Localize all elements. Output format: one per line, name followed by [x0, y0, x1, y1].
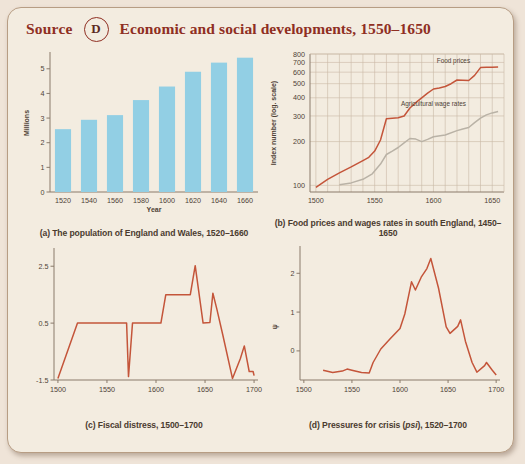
y-tick-label-b: 500: [293, 79, 305, 88]
chart-d-caption-post: ), 1520–1700: [417, 420, 466, 430]
y-tick-label-a: 4: [41, 89, 45, 98]
y-tick-label-a: 1: [41, 163, 45, 172]
y-tick-label-b: 200: [293, 137, 305, 146]
x-axis-title-a: Year: [147, 206, 162, 213]
x-tick-label-b: 1600: [425, 196, 441, 205]
y-tick-label-d: 2: [291, 269, 295, 278]
chart-a-container: 01234515201540156015801600162016401660Ye…: [20, 46, 268, 238]
x-tick-label-d: 1650: [440, 385, 456, 394]
chart-c-container: -1.50.52.515001550160016501700 (c) Fisca…: [20, 240, 268, 430]
x-tick-label-a: 1520: [55, 196, 71, 205]
source-label: Source: [26, 20, 73, 38]
x-tick-label-b: 1550: [367, 196, 383, 205]
chart-d-caption-psi: psi: [405, 420, 417, 430]
x-tick-label-c: 1500: [50, 385, 66, 394]
x-tick-label-a: 1560: [107, 196, 123, 205]
chart-b-caption: (b) Food prices and wages rates in south…: [266, 218, 510, 238]
chart-d-pressures-crisis: 01215001550160016501700ψ: [266, 240, 510, 412]
chart-b-prices-wages: 1002003004005006007008001500155016001650…: [266, 46, 510, 224]
x-tick-label-a: 1660: [237, 196, 253, 205]
y-tick-label-b: 400: [293, 93, 305, 102]
chart-c-caption: (c) Fiscal distress, 1500–1700: [20, 420, 268, 430]
x-tick-label-a: 1540: [81, 196, 97, 205]
y-axis-title-a: Millions: [23, 110, 30, 136]
x-tick-label-d: 1700: [488, 385, 504, 394]
y-tick-label-a: 2: [41, 138, 45, 147]
chart-d-container: 01215001550160016501700ψ (d) Pressures f…: [266, 240, 510, 430]
chart-a-population: 01234515201540156015801600162016401660Ye…: [20, 46, 268, 224]
x-tick-label-d: 1600: [392, 385, 408, 394]
y-tick-label-b: 800: [293, 50, 305, 59]
x-tick-label-c: 1650: [197, 385, 213, 394]
x-tick-label-a: 1640: [211, 196, 227, 205]
chart-d-caption: (d) Pressures for crisis (psi), 1520–170…: [266, 420, 510, 430]
x-tick-label-b: 1500: [308, 196, 324, 205]
series-label-1-b: Food prices: [437, 57, 470, 65]
chart-a-caption: (a) The population of England and Wales,…: [20, 228, 268, 238]
y-tick-label-c: 0.5: [39, 319, 49, 328]
y-tick-label-a: 3: [41, 114, 45, 123]
x-tick-label-a: 1620: [185, 196, 201, 205]
x-tick-label-b: 1650: [484, 196, 500, 205]
source-panel: Source D Economic and social development…: [7, 7, 514, 453]
x-tick-label-c: 1600: [148, 385, 164, 394]
y-tick-label-d: 0: [291, 346, 295, 355]
x-tick-label-d: 1550: [344, 385, 360, 394]
y-axis-title-b: Index number (log. scale): [270, 81, 278, 165]
y-tick-label-a: 5: [41, 64, 45, 73]
chart-b-container: 1002003004005006007008001500155016001650…: [266, 46, 510, 238]
page-title: Economic and social developments, 1550–1…: [120, 20, 431, 38]
x-tick-label-a: 1580: [133, 196, 149, 205]
y-tick-label-a: 0: [41, 188, 45, 197]
chart-d-caption-pre: (d) Pressures for crisis (: [309, 420, 405, 430]
y-axis-title-d: ψ: [271, 324, 279, 329]
x-tick-label-c: 1550: [99, 385, 115, 394]
y-tick-label-c: 2.5: [39, 262, 49, 271]
x-tick-label-d: 1500: [296, 385, 312, 394]
series-label-2-b: Agricultural wage rates: [401, 100, 466, 108]
x-tick-label-c: 1700: [246, 385, 262, 394]
panel-header: Source D Economic and social development…: [8, 12, 513, 46]
y-tick-label-c: -1.5: [36, 376, 48, 385]
y-tick-label-b: 700: [293, 58, 305, 67]
y-tick-label-d: 1: [291, 308, 295, 317]
y-tick-label-b: 100: [293, 181, 305, 190]
y-tick-label-b: 600: [293, 68, 305, 77]
x-tick-label-a: 1600: [159, 196, 175, 205]
chart-c-fiscal-distress: -1.50.52.515001550160016501700: [20, 240, 268, 412]
source-badge: D: [84, 17, 109, 42]
y-tick-label-b: 300: [293, 112, 305, 121]
